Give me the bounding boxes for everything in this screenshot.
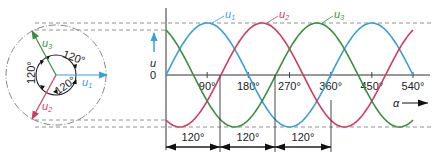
phasor-u1-label: u1 bbox=[82, 76, 92, 89]
dimension-label-2: 120° bbox=[237, 131, 260, 143]
curve-u2-label: u2 bbox=[279, 8, 289, 21]
zero-label: 0 bbox=[150, 69, 156, 81]
three-phase-diagram: u1 u3 u2 120° 120° 120° u 0 90°180°270°3… bbox=[0, 0, 436, 154]
dimension-label-3: 120° bbox=[292, 131, 315, 143]
phasor-diagram: u1 u3 u2 120° 120° 120° bbox=[6, 25, 107, 125]
waveform-axes: u 0 90°180°270°360°450°540° α bbox=[150, 8, 430, 150]
phasor-angle-left: 120° bbox=[25, 61, 37, 84]
phasor-angle-top: 120° bbox=[61, 48, 86, 67]
phasor-u2-label: u2 bbox=[42, 100, 52, 113]
x-axis-label: α bbox=[393, 97, 400, 109]
x-tick-label: 540° bbox=[402, 80, 425, 92]
dimension-label-1: 120° bbox=[182, 131, 205, 143]
phasor-u3-label: u3 bbox=[42, 37, 52, 50]
curve-labels: u1 u2 u3 bbox=[212, 8, 344, 23]
x-tick-label: 270° bbox=[278, 80, 301, 92]
curve-u1-label: u1 bbox=[225, 8, 235, 21]
y-axis-label: u bbox=[150, 57, 156, 69]
curve-u3-label: u3 bbox=[334, 8, 344, 21]
x-axis-label-group: α bbox=[393, 97, 428, 109]
